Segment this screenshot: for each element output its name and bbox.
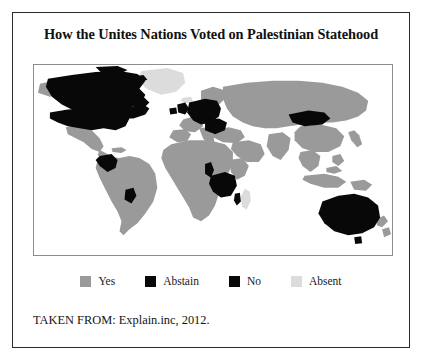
world-map-frame (33, 64, 393, 256)
source-caption: TAKEN FROM: Explain.inc, 2012. (33, 313, 210, 328)
legend-swatch-no (229, 276, 240, 287)
figure-card: How the Unites Nations Voted on Palestin… (12, 12, 410, 348)
legend-label-no: No (247, 276, 261, 288)
page-title: How the Unites Nations Voted on Palestin… (13, 26, 409, 43)
legend-item-abstain: Abstain (145, 276, 199, 288)
legend-label-abstain: Abstain (163, 276, 199, 288)
legend-swatch-abstain (145, 276, 156, 287)
legend-swatch-absent (291, 276, 302, 287)
legend-label-yes: Yes (98, 276, 115, 288)
world-map-image (34, 65, 392, 255)
legend-label-absent: Absent (309, 276, 342, 288)
map-legend: Yes Abstain No Absent (13, 276, 409, 288)
legend-item-yes: Yes (80, 276, 115, 288)
legend-item-no: No (229, 276, 261, 288)
legend-swatch-yes (80, 276, 91, 287)
legend-item-absent: Absent (291, 276, 342, 288)
